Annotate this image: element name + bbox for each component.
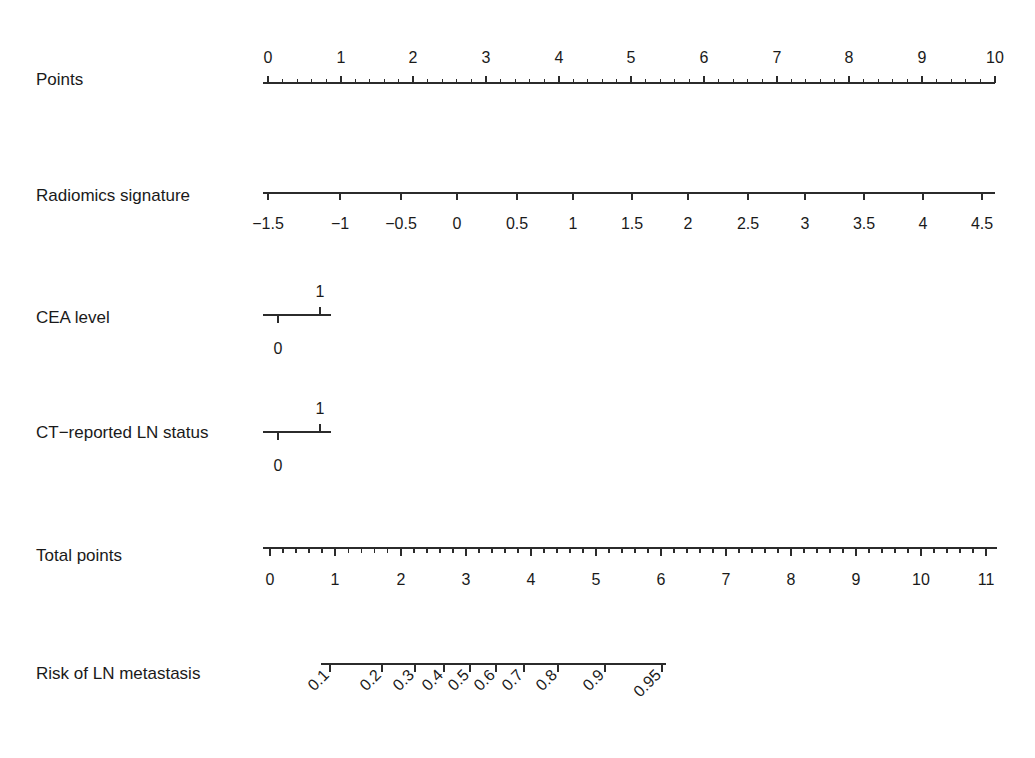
tick-label-total-points-0: 0 xyxy=(266,571,275,588)
tick-label-points-9: 9 xyxy=(918,49,927,66)
tick-label-radiomics-signature-7: 2 xyxy=(684,215,693,232)
tick-label-radiomics-signature-6: 1.5 xyxy=(621,215,643,232)
tick-label-total-points-8: 8 xyxy=(787,571,796,588)
nomogram-row-ct-reported-ln-status: CT−reported LN status01 xyxy=(36,400,331,474)
tick-label-radiomics-signature-3: 0 xyxy=(453,215,462,232)
nomogram-row-points: Points012345678910 xyxy=(36,49,1004,89)
row-label-risk-of-ln-metastasis: Risk of LN metastasis xyxy=(36,664,200,683)
tick-label-cea-level-0: 0 xyxy=(274,340,283,357)
nomogram-row-cea-level: CEA level01 xyxy=(36,283,331,357)
tick-label-total-points-9: 9 xyxy=(852,571,861,588)
tick-label-risk-of-ln-metastasis-0: 0.1 xyxy=(304,666,332,694)
tick-label-radiomics-signature-5: 1 xyxy=(569,215,578,232)
tick-label-radiomics-signature-9: 3 xyxy=(801,215,810,232)
row-label-ct-reported-ln-status: CT−reported LN status xyxy=(36,423,208,442)
tick-label-radiomics-signature-1: −1 xyxy=(331,215,349,232)
tick-label-total-points-1: 1 xyxy=(331,571,340,588)
row-label-total-points: Total points xyxy=(36,546,122,565)
tick-label-risk-of-ln-metastasis-2: 0.3 xyxy=(389,666,417,694)
nomogram-plot: Points012345678910Radiomics signature−1.… xyxy=(0,0,1035,758)
tick-label-total-points-4: 4 xyxy=(527,571,536,588)
tick-label-points-0: 0 xyxy=(264,49,273,66)
tick-label-radiomics-signature-11: 4 xyxy=(919,215,928,232)
tick-label-radiomics-signature-12: 4.5 xyxy=(971,215,993,232)
tick-label-total-points-11: 11 xyxy=(978,571,995,588)
tick-label-risk-of-ln-metastasis-9: 0.95 xyxy=(630,666,664,700)
row-label-cea-level: CEA level xyxy=(36,308,110,327)
tick-label-total-points-6: 6 xyxy=(657,571,666,588)
tick-label-risk-of-ln-metastasis-8: 0.9 xyxy=(579,666,607,694)
tick-label-total-points-7: 7 xyxy=(722,571,731,588)
row-label-points: Points xyxy=(36,70,83,89)
tick-label-cea-level-1: 1 xyxy=(316,283,325,300)
tick-label-risk-of-ln-metastasis-3: 0.4 xyxy=(418,666,446,694)
tick-label-points-4: 4 xyxy=(555,49,564,66)
tick-label-risk-of-ln-metastasis-4: 0.5 xyxy=(444,666,472,694)
tick-label-total-points-5: 5 xyxy=(592,571,601,588)
tick-label-ct-reported-ln-status-1: 1 xyxy=(316,400,325,417)
tick-label-total-points-2: 2 xyxy=(397,571,406,588)
nomogram-row-total-points: Total points01234567891011 xyxy=(36,546,997,588)
tick-label-risk-of-ln-metastasis-6: 0.7 xyxy=(498,666,526,694)
nomogram-figure: Points012345678910Radiomics signature−1.… xyxy=(0,0,1035,758)
tick-label-risk-of-ln-metastasis-1: 0.2 xyxy=(356,666,384,694)
tick-label-points-1: 1 xyxy=(337,49,346,66)
tick-label-risk-of-ln-metastasis-5: 0.6 xyxy=(470,666,498,694)
tick-label-ct-reported-ln-status-0: 0 xyxy=(274,457,283,474)
tick-label-points-8: 8 xyxy=(845,49,854,66)
nomogram-rows: Points012345678910Radiomics signature−1.… xyxy=(36,49,1004,700)
tick-label-points-5: 5 xyxy=(627,49,636,66)
tick-label-total-points-3: 3 xyxy=(462,571,471,588)
tick-label-points-10: 10 xyxy=(986,49,1004,66)
tick-label-radiomics-signature-4: 0.5 xyxy=(506,215,528,232)
tick-label-points-6: 6 xyxy=(700,49,709,66)
tick-label-radiomics-signature-0: −1.5 xyxy=(252,215,284,232)
tick-label-total-points-10: 10 xyxy=(912,571,930,588)
row-label-radiomics-signature: Radiomics signature xyxy=(36,186,190,205)
tick-label-radiomics-signature-10: 3.5 xyxy=(853,215,875,232)
tick-label-radiomics-signature-8: 2.5 xyxy=(737,215,759,232)
nomogram-row-radiomics-signature: Radiomics signature−1.5−1−0.500.511.522.… xyxy=(36,186,995,232)
tick-label-risk-of-ln-metastasis-7: 0.8 xyxy=(532,666,560,694)
tick-label-points-7: 7 xyxy=(773,49,782,66)
nomogram-row-risk-of-ln-metastasis: Risk of LN metastasis0.10.20.30.40.50.60… xyxy=(36,664,666,700)
tick-label-radiomics-signature-2: −0.5 xyxy=(385,215,417,232)
tick-label-points-3: 3 xyxy=(482,49,491,66)
tick-label-points-2: 2 xyxy=(409,49,418,66)
